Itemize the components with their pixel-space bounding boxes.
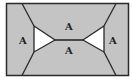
- region-diagram: A A A A: [0, 0, 132, 79]
- label-bottom: A: [64, 45, 73, 56]
- label-left: A: [18, 35, 27, 46]
- label-top: A: [64, 21, 73, 32]
- label-right: A: [108, 35, 117, 46]
